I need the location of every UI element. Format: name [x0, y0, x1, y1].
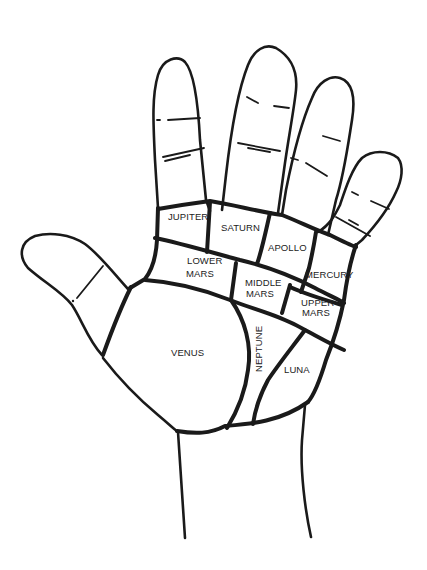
middle-mars-upper-mars-divider [282, 285, 290, 313]
saturn-apollo-divider [257, 213, 270, 264]
label-lower-mars-line2: MARS [186, 268, 214, 279]
forearm-right-edge [302, 405, 311, 537]
middle-finger-crease [238, 143, 280, 152]
label-apollo: APOLLO [268, 242, 307, 253]
label-venus: VENUS [171, 347, 204, 358]
label-middle-mars-line2: MARS [246, 288, 274, 299]
little-finger-crease [336, 217, 370, 236]
forearm-left-edge [178, 432, 185, 538]
label-jupiter: JUPITER [168, 211, 208, 222]
palmistry-hand-diagram: JUPITER SATURN APOLLO LOWER MARS MIDDLE … [0, 0, 427, 570]
index-finger-crease [163, 148, 204, 161]
jupiter-saturn-divider [207, 202, 210, 252]
label-middle-mars-line1: MIDDLE [245, 277, 282, 288]
index-finger-crease [157, 118, 200, 120]
ring-finger-outline [282, 77, 354, 235]
label-upper-mars-line2: MARS [302, 307, 330, 318]
venus-right-boundary [227, 300, 249, 428]
thumb-crease [77, 266, 103, 298]
ring-finger-crease [291, 158, 327, 176]
label-lower-mars-line1: LOWER [187, 255, 222, 266]
ring-finger-crease [323, 136, 340, 141]
lower-middle-mars-divider [231, 263, 236, 300]
thumb-base-line [103, 287, 131, 355]
palm-lower-left-edge [103, 358, 178, 432]
label-neptune: NEPTUNE [253, 326, 264, 372]
thumb-outline [22, 234, 128, 355]
wrist-base-curve [177, 402, 308, 433]
little-finger-crease [352, 192, 389, 209]
label-mercury: MERCURY [305, 269, 354, 280]
index-finger-outline [153, 58, 210, 211]
middle-finger-crease [247, 97, 289, 108]
thumb-dot [72, 300, 74, 302]
label-luna: LUNA [284, 364, 310, 375]
label-saturn: SATURN [221, 222, 260, 233]
palm-left-edge [130, 208, 158, 288]
